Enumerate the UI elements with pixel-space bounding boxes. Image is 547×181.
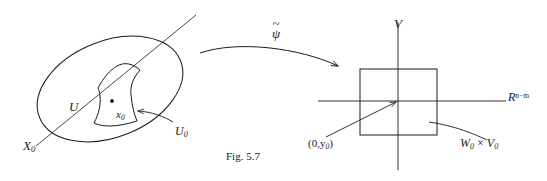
- label-U0: U0: [175, 125, 188, 139]
- product-box-rectangle: [360, 69, 437, 135]
- psi-tilde-wrapper: ~ψ: [272, 27, 280, 40]
- label-W-base: W: [460, 136, 470, 150]
- label-W-sub: 0: [470, 142, 474, 151]
- label-V-axis: V: [394, 17, 402, 30]
- label-X0-base: X: [23, 138, 31, 153]
- label-U: U: [69, 100, 78, 113]
- label-Rnm-axis: Rn−m: [508, 91, 529, 103]
- label-X0-sub: 0: [31, 144, 35, 154]
- label-U0-base: U: [175, 124, 184, 138]
- outer-oval-boundary: [22, 16, 199, 162]
- label-origin-point: (0,y0): [308, 138, 333, 150]
- map-arrow-curve: [200, 47, 338, 66]
- label-R-exponent: n−m: [515, 91, 529, 100]
- base-point-marker: [110, 99, 114, 103]
- figure-5-7: X0 U x0 U0 ~ψ Fig. 5.7 V Rn−m (0,y0) W0×…: [0, 0, 547, 181]
- label-V0-sub: 0: [494, 142, 498, 151]
- label-U0-sub: 0: [184, 130, 188, 139]
- origin-leader-arrow: [326, 102, 396, 137]
- label-origin-close: ): [329, 137, 333, 149]
- diagonal-axis-line: [36, 15, 196, 146]
- figure-caption: Fig. 5.7: [226, 151, 260, 162]
- label-psi-tilde: ~ψ: [272, 27, 280, 40]
- label-x0: x0: [116, 109, 125, 121]
- figure-caption-text: Fig. 5.7: [226, 150, 260, 162]
- label-U-base: U: [69, 99, 78, 114]
- u0-leader-arrow: [138, 111, 173, 122]
- label-product-box: W0×V0: [460, 137, 498, 151]
- label-X0: X0: [23, 139, 35, 154]
- label-V-text: V: [394, 16, 402, 31]
- label-times-sign: ×: [477, 136, 484, 150]
- label-x0-sub: 0: [121, 113, 125, 122]
- label-origin-open: (0,y: [308, 137, 325, 149]
- tilde-accent: ~: [273, 18, 280, 30]
